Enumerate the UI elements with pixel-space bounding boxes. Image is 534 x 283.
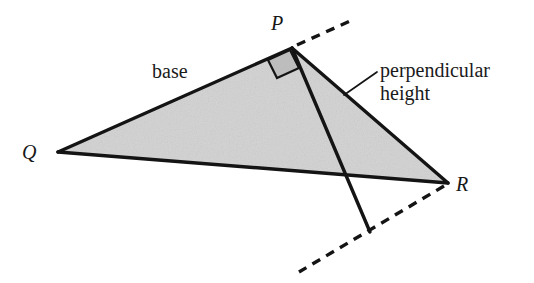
leader-line	[344, 72, 377, 95]
vertex-label-r: R	[456, 174, 468, 194]
dashed-extension-upper-icon	[297, 21, 350, 45]
vertex-label-p: P	[271, 13, 283, 33]
base-label: base	[152, 60, 188, 83]
geometry-figure: P Q R base perpendicular height	[0, 0, 534, 283]
perpendicular-label: perpendicular	[380, 59, 490, 82]
geometry-canvas	[0, 0, 534, 283]
dashed-extension-lower-icon	[299, 186, 444, 272]
height-label: height	[380, 82, 430, 105]
vertex-label-q: Q	[22, 142, 37, 162]
